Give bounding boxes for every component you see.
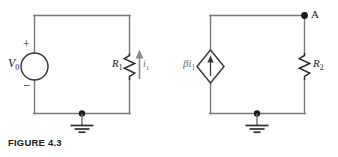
voltage-source-label: V0	[8, 57, 19, 73]
current-i1-label: i1	[143, 59, 149, 72]
voltage-source-plus-sign: +	[23, 38, 30, 50]
dependent-source-label: βi1	[183, 58, 195, 72]
resistor-r1-label-symbol: R	[112, 57, 119, 69]
resistor-r1-label: R1	[112, 58, 122, 72]
node-a-label: A	[311, 9, 319, 20]
dependent-source-label-subscript: 1	[192, 63, 196, 72]
right-circuit-group	[197, 12, 310, 132]
resistor-r2-symbol	[299, 53, 309, 80]
left-ground-symbol	[71, 114, 94, 133]
resistor-r1-label-subscript: 1	[119, 63, 123, 72]
resistor-r1-symbol	[124, 53, 134, 80]
voltage-source-label-subscript: 0	[15, 63, 19, 72]
voltage-source-symbol	[21, 53, 48, 80]
dependent-source-arrow	[207, 56, 213, 77]
node-a-dot	[301, 12, 308, 19]
circuit-diagram-canvas	[0, 0, 338, 157]
voltage-source-minus-sign: −	[23, 79, 30, 92]
resistor-r2-label-symbol: R	[313, 57, 320, 69]
left-circuit-group	[21, 16, 143, 133]
resistor-r2-label: R2	[313, 58, 323, 72]
right-ground-symbol	[246, 114, 269, 133]
figure-container: V0 + − R1 i1 βi1 A R2 FIGURE 4.3	[0, 0, 338, 157]
resistor-r2-label-subscript: 2	[320, 63, 324, 72]
figure-caption: FIGURE 4.3	[8, 137, 62, 148]
current-i1-label-subscript: 1	[146, 64, 149, 71]
